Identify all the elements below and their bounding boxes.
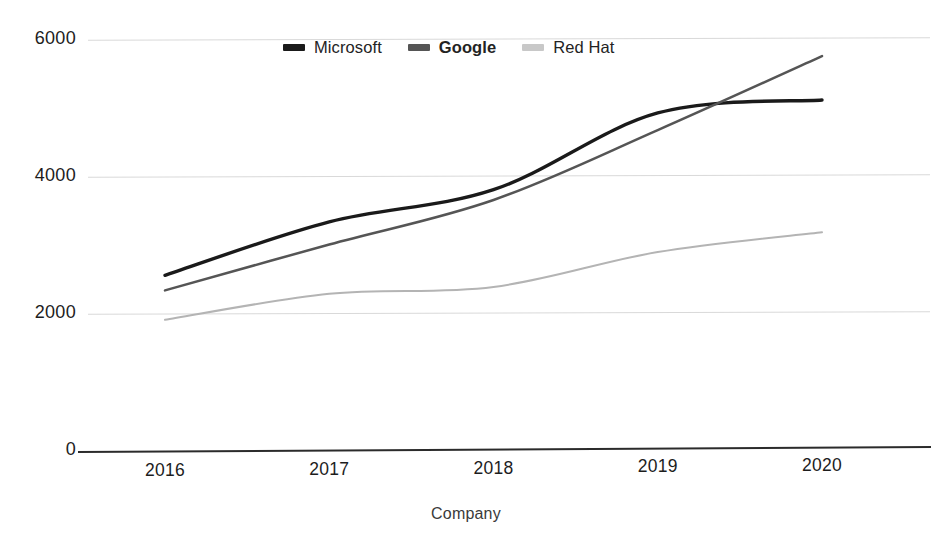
- legend-item-google[interactable]: Google: [408, 38, 496, 57]
- line-chart: MicrosoftGoogleRed Hat 6000400020000 201…: [0, 0, 932, 551]
- legend-swatch-icon: [283, 44, 305, 51]
- x-axis-tick-label: 2017: [279, 459, 379, 480]
- legend-swatch-icon: [522, 44, 544, 51]
- x-axis-tick-label: 2020: [772, 455, 872, 476]
- chart-legend: MicrosoftGoogleRed Hat: [283, 34, 641, 60]
- legend-item-label: Google: [439, 38, 496, 57]
- legend-item-red-hat[interactable]: Red Hat: [522, 38, 614, 57]
- legend-swatch-icon: [408, 44, 430, 51]
- x-axis-tick-label: 2019: [608, 456, 708, 477]
- legend-item-label: Red Hat: [553, 38, 614, 57]
- x-axis-tick-label: 2016: [115, 460, 215, 481]
- legend-item-microsoft[interactable]: Microsoft: [283, 38, 382, 57]
- x-axis-tick-label: 2018: [444, 458, 544, 479]
- x-axis-tick-labels: 20162017201820192020: [0, 0, 932, 551]
- x-axis-title: Company: [0, 505, 932, 523]
- legend-item-label: Microsoft: [314, 38, 382, 57]
